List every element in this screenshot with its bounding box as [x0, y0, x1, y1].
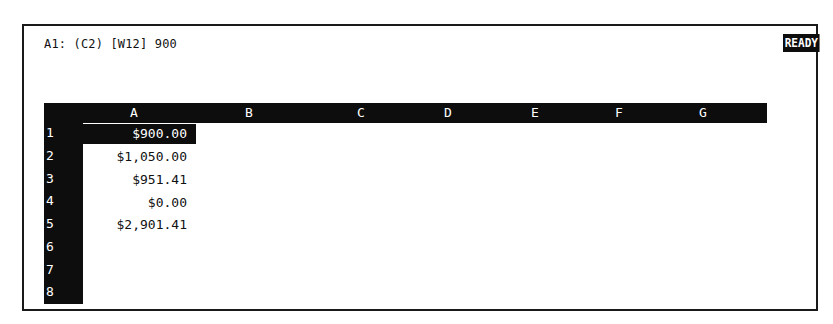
row-header-1[interactable]: 1 [46, 124, 54, 144]
row-header-4[interactable]: 4 [46, 192, 54, 212]
mode-indicator: READY [783, 34, 820, 52]
cell-a4[interactable]: $0.00 [83, 193, 196, 213]
cell-a8[interactable] [83, 283, 196, 303]
cell-status-line: A1: (C2) [W12] 900 [44, 36, 177, 51]
row-header-8[interactable]: 8 [46, 283, 54, 303]
row-header-5[interactable]: 5 [46, 215, 54, 235]
column-header-b[interactable]: B [239, 103, 259, 123]
row-header-6[interactable]: 6 [46, 238, 54, 258]
column-header-c[interactable]: C [351, 103, 371, 123]
cell-a3[interactable]: $951.41 [83, 170, 196, 190]
cell-a7[interactable] [83, 261, 196, 281]
column-header-g[interactable]: G [693, 103, 713, 123]
row-header-2[interactable]: 2 [46, 147, 54, 167]
row-header-3[interactable]: 3 [46, 170, 54, 190]
column-header-d[interactable]: D [438, 103, 458, 123]
column-header-e[interactable]: E [525, 103, 545, 123]
row-header-7[interactable]: 7 [46, 261, 54, 281]
cell-a5[interactable]: $2,901.41 [83, 215, 196, 235]
cell-a2[interactable]: $1,050.00 [83, 147, 196, 167]
column-header-a[interactable]: A [124, 103, 144, 123]
column-header-f[interactable]: F [609, 103, 629, 123]
cell-a6[interactable] [83, 238, 196, 258]
column-header-bar: A B C D E F G [44, 103, 767, 123]
cell-a1[interactable]: $900.00 [83, 124, 196, 144]
row-header-column: 1 2 3 4 5 6 7 8 [44, 123, 83, 304]
